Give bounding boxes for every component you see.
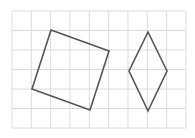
grid-diagram xyxy=(0,0,195,138)
rhombus-shape xyxy=(129,32,167,111)
